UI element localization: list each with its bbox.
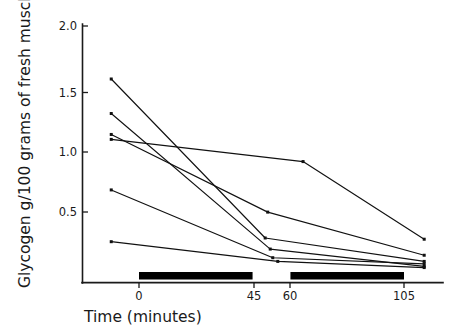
- exercise-bout-1: [139, 272, 253, 280]
- series-group: [110, 78, 426, 270]
- data-point-subject-4-0: [110, 138, 113, 141]
- data-point-subject-6-1: [276, 260, 279, 263]
- exercise-bout-2: [290, 272, 404, 280]
- series-line-subject-3: [111, 134, 424, 255]
- chart-figure: 2.0 1.5 1.0 0.5 0 45 60 105 Time (minute…: [0, 0, 449, 333]
- data-point-subject-1-1: [264, 236, 267, 239]
- data-point-subject-5-0: [110, 188, 113, 191]
- data-point-subject-3-2: [423, 254, 426, 257]
- x-tick-label-105: 105: [393, 289, 415, 303]
- y-tick-label-0_5: 0.5: [59, 205, 77, 219]
- data-point-subject-5-2: [423, 262, 426, 265]
- x-tick-marks: [139, 283, 404, 288]
- data-point-subject-6-2: [423, 266, 426, 269]
- x-tick-label-60: 60: [283, 289, 298, 303]
- data-point-subject-2-1: [269, 248, 272, 251]
- data-point-subject-3-1: [266, 211, 269, 214]
- data-point-subject-4-1: [302, 160, 305, 163]
- x-axis-title: Time (minutes): [83, 308, 202, 326]
- data-point-subject-5-1: [271, 256, 274, 259]
- y-axis-title: Glycogen g/100 grams of fresh muscle: [16, 0, 34, 288]
- data-point-subject-1-0: [110, 78, 113, 81]
- series-line-subject-5: [111, 190, 424, 264]
- y-tick-labels: 2.0 1.5 1.0 0.5: [59, 19, 77, 219]
- line-chart-svg: 2.0 1.5 1.0 0.5 0 45 60 105 Time (minute…: [0, 0, 449, 333]
- y-tick-label-1_5: 1.5: [59, 86, 77, 100]
- x-tick-label-0: 0: [135, 289, 142, 303]
- data-point-subject-3-0: [110, 133, 113, 136]
- y-tick-label-2: 2.0: [59, 19, 77, 33]
- data-point-subject-4-2: [423, 238, 426, 241]
- exercise-bout-bars: [139, 272, 404, 280]
- data-point-subject-6-0: [110, 240, 113, 243]
- data-point-subject-2-0: [110, 112, 113, 115]
- series-line-subject-4: [111, 139, 424, 239]
- series-line-subject-2: [111, 114, 424, 267]
- x-tick-labels: 0 45 60 105: [135, 289, 415, 303]
- y-tick-marks: [83, 26, 89, 212]
- x-tick-label-45: 45: [247, 289, 262, 303]
- series-line-subject-1: [111, 79, 424, 261]
- y-tick-label-1: 1.0: [59, 145, 77, 159]
